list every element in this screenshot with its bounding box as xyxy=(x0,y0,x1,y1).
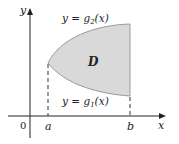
upper-curve-label: y = g2(x) xyxy=(61,12,109,26)
x-axis-label: x xyxy=(158,119,165,132)
y-axis-arrow-icon xyxy=(27,8,33,15)
origin-label: 0 xyxy=(20,120,26,131)
region-label: D xyxy=(87,55,99,69)
lower-curve-label: y = g1(x) xyxy=(61,95,109,109)
a-label: a xyxy=(45,120,52,133)
b-label: b xyxy=(127,120,134,133)
y-axis-label: y xyxy=(19,4,27,17)
region-diagram: y x 0 a b D y = g2(x) y = g1(x) xyxy=(0,0,179,144)
